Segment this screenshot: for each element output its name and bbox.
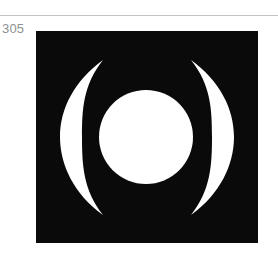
center-circle: [99, 90, 193, 184]
bracketed-circle-symbol: [36, 31, 258, 243]
top-divider-rule: [0, 15, 278, 16]
symbol-plate: [36, 31, 258, 243]
figure-number-label: 305: [2, 21, 24, 36]
figure-page: 305: [0, 0, 278, 254]
